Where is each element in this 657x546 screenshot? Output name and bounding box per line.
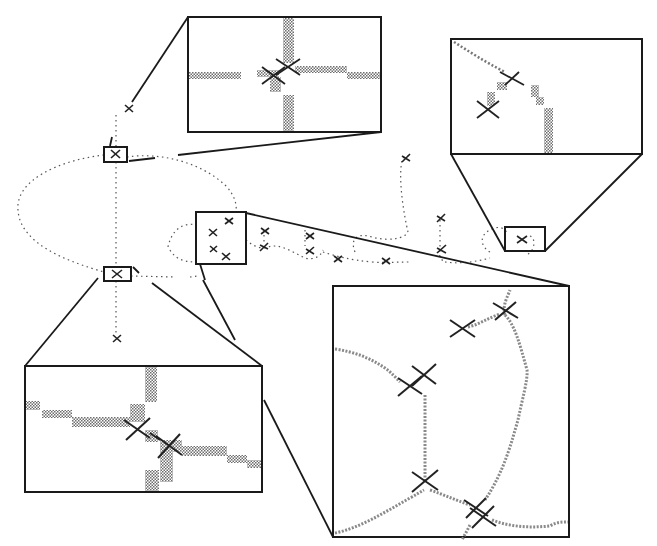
diagram-figure: [0, 0, 657, 546]
cross-icon: [222, 253, 230, 260]
cross-icon: [209, 229, 217, 236]
cross-icon: [260, 243, 268, 251]
box-c: [196, 212, 246, 264]
cross-icon: [517, 236, 527, 243]
box-d: [505, 227, 545, 251]
inset-bottom-left: [25, 366, 262, 492]
cross-icon: [125, 105, 133, 112]
cross-icon: [113, 335, 121, 342]
cross-icon: [225, 218, 233, 224]
cross-icon: [306, 247, 314, 254]
inset-top: [188, 17, 381, 132]
cross-icon: [306, 233, 314, 239]
cross-icon: [210, 246, 217, 252]
cross-icon: [382, 258, 390, 264]
cross-icon: [112, 270, 122, 278]
cross-icon: [437, 214, 445, 222]
cross-icon: [111, 150, 120, 158]
inset-bottom-right: [333, 286, 569, 540]
inset-top-right: [451, 39, 642, 154]
cross-icon: [402, 154, 410, 162]
small-boxes: [104, 147, 545, 281]
cross-icon: [261, 228, 269, 234]
cross-icon: [437, 245, 446, 253]
